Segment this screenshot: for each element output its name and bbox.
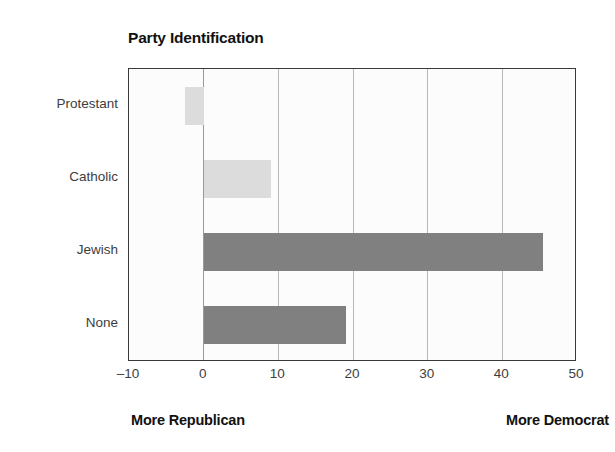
y-axis-label-none: None xyxy=(0,315,118,330)
chart-title: Party Identification xyxy=(128,29,264,47)
y-axis-label-catholic: Catholic xyxy=(0,169,118,184)
x-tick-30: 30 xyxy=(419,366,434,381)
bar-catholic xyxy=(204,160,271,198)
y-axis-label-jewish: Jewish xyxy=(0,242,118,257)
chart-figure: Party Identification Protestant Catholic… xyxy=(0,0,615,452)
x-tick-20: 20 xyxy=(344,366,359,381)
bar-jewish xyxy=(204,233,544,271)
x-tick-10: 10 xyxy=(270,366,285,381)
annotation-more-democrat: More Democrat xyxy=(506,412,609,428)
annotation-more-republican: More Republican xyxy=(131,412,245,428)
x-tick--10: –10 xyxy=(117,366,140,381)
plot-area xyxy=(128,68,576,361)
gridline-30 xyxy=(427,69,428,360)
x-tick-40: 40 xyxy=(494,366,509,381)
x-tick-0: 0 xyxy=(199,366,207,381)
gridline-40 xyxy=(502,69,503,360)
gridline-20 xyxy=(353,69,354,360)
bar-protestant xyxy=(185,87,204,125)
bar-none xyxy=(204,306,346,344)
y-axis-label-protestant: Protestant xyxy=(0,96,118,111)
x-tick-50: 50 xyxy=(568,366,583,381)
